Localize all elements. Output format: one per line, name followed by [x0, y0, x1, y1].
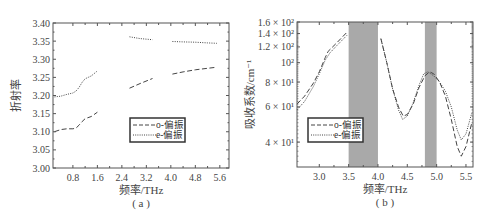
panel-a-y-axis-title: 折射率 [9, 79, 22, 112]
x-tick-label: 3.2 [140, 172, 153, 183]
x-tick-label: 4.0 [372, 171, 385, 182]
x-tick-label: 5.0 [430, 171, 443, 182]
x-tick-label: 3.0 [313, 171, 326, 182]
panel-b-absorption-chart: 4 × 10¹6 × 10¹8 × 10¹10²1.2 × 10²1.4 × 1… [243, 17, 473, 210]
y-tick-label: 3.25 [33, 72, 51, 83]
x-tick-label: 1.6 [91, 172, 104, 183]
y-tick-label: 8 × 10¹ [265, 77, 294, 88]
series-line-o [130, 79, 153, 89]
panel-b-ticks [297, 22, 473, 167]
panel-b-caption: ( b ) [376, 196, 395, 209]
panel-b-legend: o-偏振 e-偏振 [308, 118, 363, 142]
x-tick-label: 4.0 [165, 172, 178, 183]
shaded-band [425, 22, 437, 167]
series-line-o [172, 67, 216, 74]
panel-b-y-axis-title: 吸收系数/cm⁻¹ [243, 60, 256, 130]
legend-label-e-polarization: e-偏振 [156, 129, 183, 140]
y-tick-label: 4 × 10¹ [265, 137, 294, 148]
panel-a-plot-frame [53, 23, 229, 168]
legend-label-o-polarization: o-偏振 [334, 119, 362, 130]
y-tick-label: 3.40 [33, 18, 51, 29]
series-line-e [55, 71, 98, 97]
panel-a-ticks [53, 23, 229, 168]
x-tick-label: 5.6 [214, 172, 227, 183]
y-tick-label: 3.05 [33, 144, 51, 155]
panel-b-x-axis-title: 频率/THz [363, 182, 408, 195]
series-line-e [297, 35, 347, 110]
y-tick-label: 3.10 [33, 126, 51, 137]
legend-label-o-polarization: o-偏振 [156, 119, 184, 130]
y-tick-label: 3.35 [33, 36, 51, 47]
series-line-e [130, 37, 153, 40]
y-tick-label: 1.6 × 10² [258, 17, 294, 28]
panel-b-x-tick-labels: 3.03.54.04.55.05.5 [313, 171, 472, 182]
y-tick-label: 1.2 × 10² [258, 41, 294, 52]
panel-b-plot-frame [297, 22, 473, 167]
series-line-o [55, 112, 98, 132]
panel-b-shaded-bands [349, 22, 437, 167]
series-line-e [172, 42, 216, 44]
x-tick-label: 4.5 [401, 171, 414, 182]
x-tick-label: 4.8 [189, 172, 202, 183]
panel-a-legend: o-偏振 e-偏振 [130, 118, 185, 142]
panel-a-refractive-index-chart: 3.003.053.103.153.203.253.303.353.40 0.8… [9, 18, 229, 211]
legend-label-e-polarization: e-偏振 [334, 129, 361, 140]
panel-a-x-axis-title: 频率/THz [119, 183, 164, 196]
figure: 3.003.053.103.153.203.253.303.353.40 0.8… [0, 0, 489, 218]
shaded-band [349, 22, 378, 167]
y-tick-label: 1.4 × 10² [258, 28, 294, 39]
x-tick-label: 5.5 [460, 171, 473, 182]
y-tick-label: 3.30 [33, 54, 51, 65]
x-tick-label: 2.4 [116, 172, 129, 183]
x-tick-label: 0.8 [67, 172, 80, 183]
panel-a-y-tick-labels: 3.003.053.103.153.203.253.303.353.40 [33, 18, 51, 174]
panel-a-caption: ( a ) [132, 197, 150, 210]
y-tick-label: 3.00 [33, 163, 51, 174]
panel-b-y-tick-labels: 4 × 10¹6 × 10¹8 × 10¹10²1.2 × 10²1.4 × 1… [258, 17, 294, 148]
panel-a-x-tick-labels: 0.81.62.43.24.04.85.6 [67, 172, 226, 183]
y-tick-label: 6 × 10¹ [265, 101, 294, 112]
y-tick-label: 10² [281, 57, 294, 68]
x-tick-label: 3.5 [342, 171, 355, 182]
y-tick-label: 3.20 [33, 90, 51, 101]
y-tick-label: 3.15 [33, 108, 51, 119]
